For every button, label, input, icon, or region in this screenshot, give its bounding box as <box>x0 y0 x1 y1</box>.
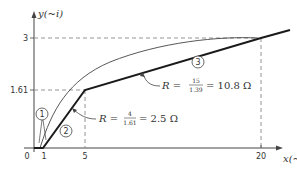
svg-text:4: 4 <box>128 110 132 117</box>
origin-label: 0 <box>24 152 29 161</box>
region-marker-3: 3 <box>192 56 204 68</box>
actual-curve <box>40 38 258 148</box>
y-axis-label: y(~i) <box>37 8 63 19</box>
region-marker-1: 1 <box>36 108 48 143</box>
svg-text:= 10.8 Ω: = 10.8 Ω <box>206 80 251 91</box>
svg-text:1.39: 1.39 <box>189 86 203 93</box>
svg-text:R =: R = <box>98 113 118 124</box>
annotation-resistance-low: R = 4 1.61 = 2.5 Ω <box>72 108 178 126</box>
svg-text:2: 2 <box>63 127 68 136</box>
region-marker-2: 2 <box>60 125 72 137</box>
y-axis-arrow-icon <box>32 11 37 18</box>
x-axis-label: x(~vT) <box>283 153 297 166</box>
piecewise-linear-diagram: y(~i) x(~vT) 0 1 5 20 3 1.61 1 2 3 R = 4… <box>0 0 297 169</box>
svg-text:R =: R = <box>161 80 181 91</box>
svg-text:= 2.5 Ω: = 2.5 Ω <box>139 113 178 124</box>
y-tick-3: 3 <box>23 34 28 43</box>
y-tick-1.61: 1.61 <box>10 86 28 95</box>
svg-text:3: 3 <box>195 58 200 67</box>
svg-text:15: 15 <box>192 77 200 84</box>
x-axis-arrow-icon <box>276 146 283 151</box>
x-tick-1: 1 <box>41 152 46 161</box>
svg-text:1.61: 1.61 <box>123 119 136 126</box>
svg-text:1: 1 <box>39 110 44 119</box>
annotation-resistance-high: R = 15 1.39 = 10.8 Ω <box>140 72 251 93</box>
x-tick-20: 20 <box>256 152 266 161</box>
x-tick-5: 5 <box>82 152 87 161</box>
